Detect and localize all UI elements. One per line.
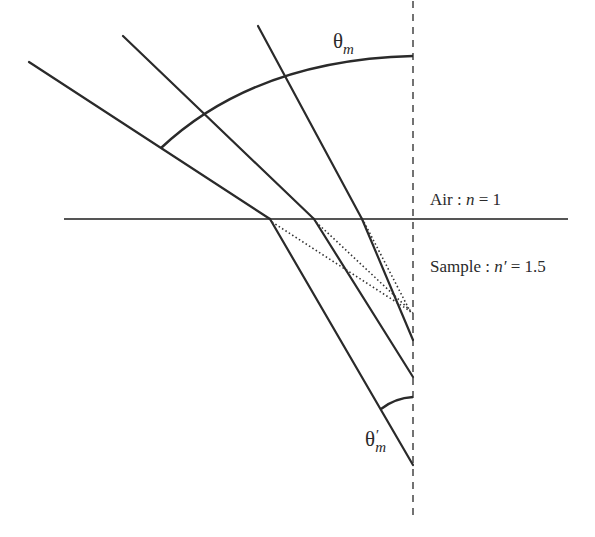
theta-m-label: θm bbox=[333, 29, 354, 57]
theta-m-arc bbox=[161, 56, 413, 148]
dotted-line-3 bbox=[364, 222, 411, 313]
theta-m-prime-label: θ′m bbox=[365, 427, 386, 455]
sample-label: Sample : n′ = 1.5 bbox=[430, 257, 546, 276]
incident-ray-1 bbox=[29, 62, 270, 219]
refracted-ray-3 bbox=[362, 219, 413, 340]
incident-ray-2 bbox=[123, 36, 314, 219]
refraction-diagram: θm θ′m Air : n = 1 Sample : n′ = 1.5 bbox=[0, 0, 595, 537]
refracted-ray-2 bbox=[314, 219, 413, 377]
air-label: Air : n = 1 bbox=[430, 190, 501, 209]
theta-m-prime-arc bbox=[381, 397, 413, 409]
dotted-line-1 bbox=[272, 222, 410, 311]
